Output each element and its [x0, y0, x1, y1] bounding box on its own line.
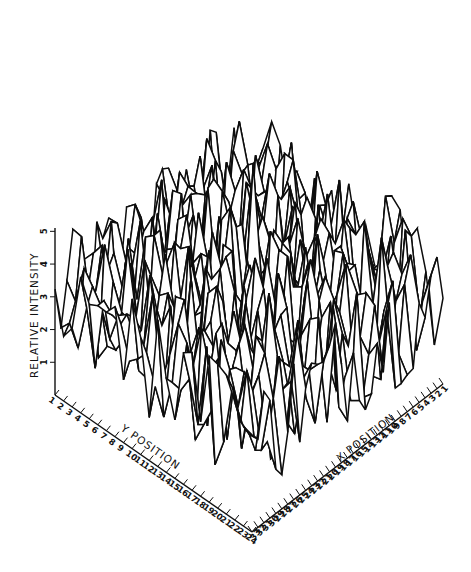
y-tick — [115, 432, 119, 437]
z-axis-ticks: 12345 — [39, 228, 55, 365]
z-tick-label: 5 — [39, 228, 49, 234]
x-tick — [409, 401, 413, 407]
x-tick — [439, 378, 443, 384]
y-tick — [209, 497, 213, 502]
x-tick — [421, 392, 425, 398]
surface-cell — [429, 257, 444, 345]
y-tick-label: 5 — [81, 418, 92, 430]
z-tick-label: 1 — [39, 359, 49, 365]
y-tick — [158, 461, 162, 466]
y-tick-label: 2 — [55, 400, 66, 412]
y-tick — [166, 467, 170, 472]
y-tick-label: 8 — [107, 436, 118, 448]
y-tick — [124, 438, 128, 443]
y-tick — [243, 521, 247, 526]
y-tick — [149, 456, 153, 461]
z-tick-label: 4 — [39, 261, 49, 267]
y-tick — [89, 414, 93, 419]
y-tick — [98, 420, 102, 425]
y-tick-label: 3 — [64, 406, 75, 418]
z-tick-label: 3 — [39, 294, 49, 300]
y-tick-label: 6 — [90, 424, 101, 436]
y-tick — [183, 479, 187, 484]
y-tick — [201, 491, 205, 496]
y-tick — [72, 402, 76, 407]
x-tick — [403, 406, 407, 412]
z-axis-title: RELATIVE INTENSITY — [28, 253, 40, 379]
surface-plot: 12345 1234567891011121314151617181920212… — [0, 0, 471, 572]
y-tick — [64, 396, 68, 401]
y-tick — [226, 509, 230, 514]
y-tick-label: 1 — [47, 394, 58, 406]
y-tick — [132, 444, 136, 449]
y-tick — [106, 426, 110, 431]
z-tick-label: 2 — [39, 327, 49, 333]
y-tick-label: 7 — [98, 430, 109, 442]
y-tick — [218, 503, 222, 508]
y-tick — [192, 485, 196, 490]
y-tick-label: 9 — [115, 442, 126, 454]
y-tick — [141, 450, 145, 455]
x-tick — [433, 383, 437, 389]
x-tick — [397, 410, 401, 416]
x-tick — [427, 387, 431, 393]
y-tick — [175, 473, 179, 478]
y-tick — [81, 408, 85, 413]
y-tick-label: 4 — [73, 412, 84, 424]
x-tick — [415, 397, 419, 403]
y-tick — [235, 515, 239, 520]
